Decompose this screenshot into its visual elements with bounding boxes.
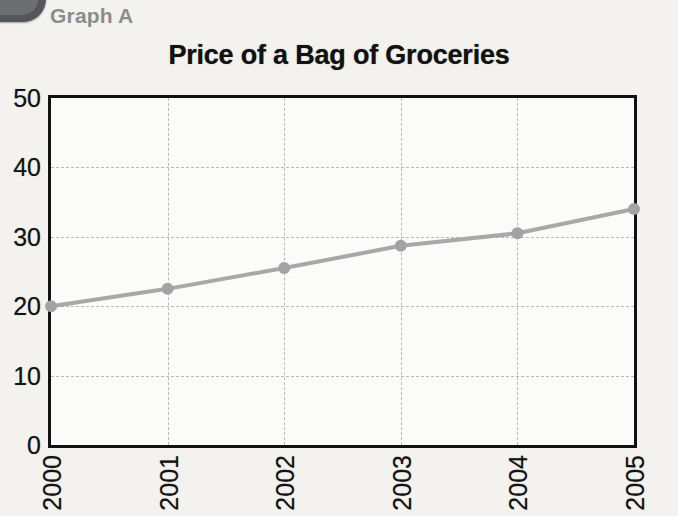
y-tick-label: 50: [0, 84, 41, 113]
plot-inner: [51, 98, 634, 445]
y-tick-label: 40: [0, 153, 41, 182]
x-tick-label: 2002: [271, 455, 300, 511]
y-tick-label: 30: [0, 222, 41, 251]
y-tick-label: 0: [0, 431, 41, 460]
gridline-vertical: [284, 98, 285, 445]
line-chart: 01020304050 200020012002200320042005: [0, 0, 678, 516]
x-tick-label: 2005: [621, 455, 650, 511]
y-tick-label: 10: [0, 361, 41, 390]
gridline-vertical: [168, 98, 169, 445]
y-tick-label: 20: [0, 292, 41, 321]
gridline-horizontal: [51, 376, 634, 377]
gridline-horizontal: [51, 237, 634, 238]
gridline-horizontal: [51, 167, 634, 168]
gridline-vertical: [517, 98, 518, 445]
series-line: [51, 98, 634, 445]
series-polyline: [51, 209, 634, 306]
x-tick-label: 2003: [388, 455, 417, 511]
x-tick-label: 2001: [155, 455, 184, 511]
x-tick-label: 2004: [504, 455, 533, 511]
x-tick-label: 2000: [38, 455, 67, 511]
gridline-vertical: [401, 98, 402, 445]
gridline-horizontal: [51, 306, 634, 307]
